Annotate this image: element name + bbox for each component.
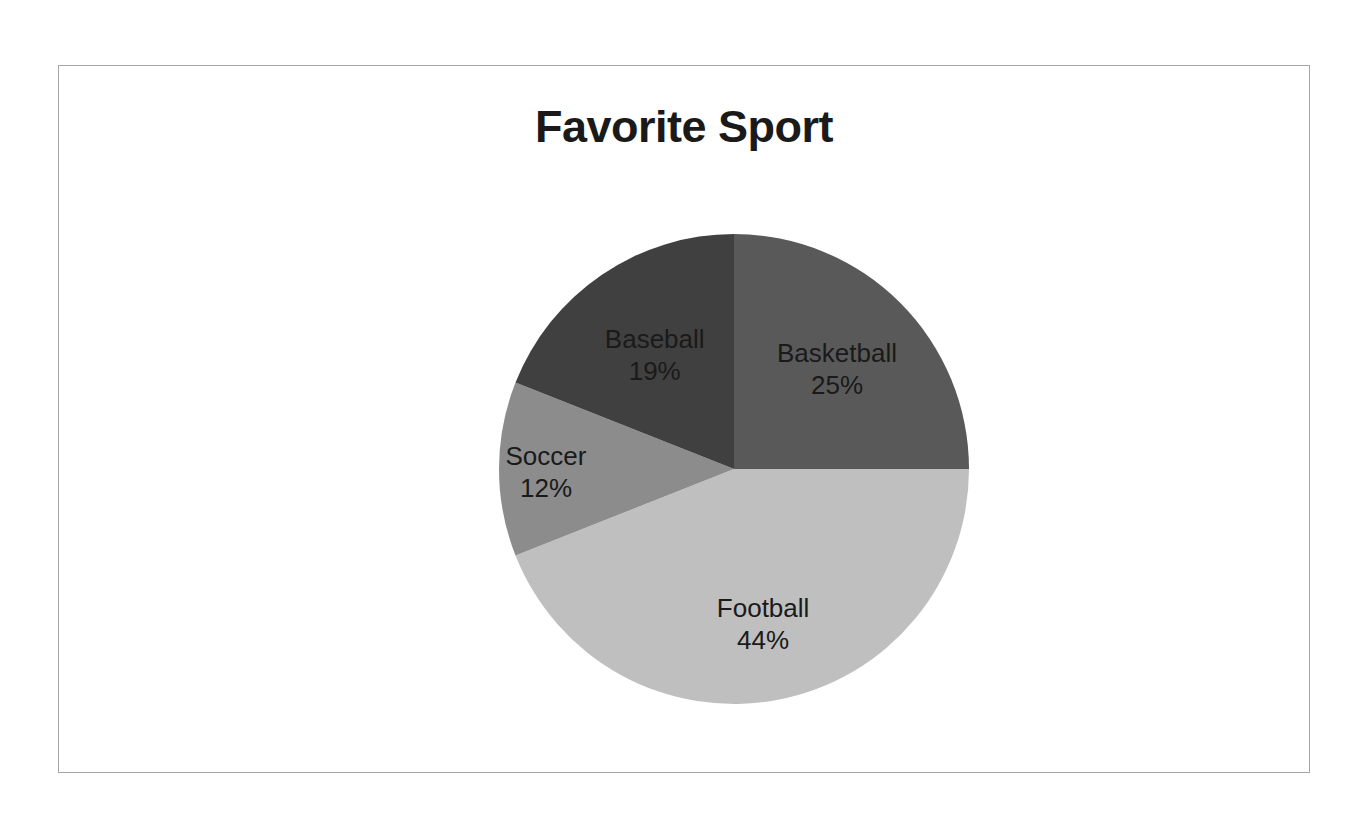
pie-label-football-name: Football	[717, 593, 810, 623]
pie-label-baseball-name: Baseball	[605, 324, 705, 354]
pie-label-baseball-value: 19%	[629, 356, 681, 386]
pie-label-basketball-name: Basketball	[777, 338, 897, 368]
pie-label-basketball-value: 25%	[811, 370, 863, 400]
pie-label-soccer-name: Soccer	[506, 441, 587, 471]
pie-plot-area: Basketball 25% Football 44% Soccer 12% B…	[59, 66, 1309, 772]
pie-label-football-value: 44%	[737, 625, 789, 655]
pie-label-soccer-value: 12%	[520, 473, 572, 503]
pie-chart: Basketball 25% Football 44% Soccer 12% B…	[371, 234, 1097, 704]
chart-frame: Favorite Sport Basketball 25% Football 4…	[58, 65, 1310, 773]
